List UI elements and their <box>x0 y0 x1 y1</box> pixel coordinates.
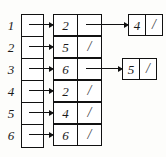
list-node-row1-second: 4 / <box>128 14 163 36</box>
list-node-row4-first: 2 / <box>53 80 102 102</box>
list-node-row5-first: 4 / <box>53 102 102 124</box>
array-slot-2 <box>22 37 43 59</box>
array-slot-3 <box>22 59 43 81</box>
node-value: 5 <box>54 37 78 57</box>
node-null-marker: / <box>78 103 101 123</box>
node-value: 6 <box>54 59 78 79</box>
node-value: 2 <box>54 81 78 101</box>
linked-list-diagram: 1 2 3 4 5 6 2 4 / 5 / 6 5 / <box>0 0 166 157</box>
node-null-marker: / <box>78 37 101 57</box>
next-arrow-row1 <box>86 24 128 25</box>
head-arrow-4 <box>29 90 53 91</box>
index-label-3: 3 <box>4 63 18 76</box>
node-null-marker: / <box>78 125 101 145</box>
head-arrow-6 <box>29 134 53 135</box>
list-node-row3-second: 5 / <box>122 58 157 80</box>
array-slot-6 <box>22 125 43 147</box>
array-slot-4 <box>22 81 43 103</box>
index-label-5: 5 <box>4 107 18 120</box>
node-value: 2 <box>54 15 78 35</box>
node-null-marker: / <box>140 59 156 79</box>
node-value: 4 <box>54 103 78 123</box>
list-node-row2-first: 5 / <box>53 36 102 58</box>
node-null-marker: / <box>146 15 162 35</box>
array-slot-1 <box>22 15 43 37</box>
index-label-1: 1 <box>4 19 18 32</box>
head-arrow-5 <box>29 112 53 113</box>
next-arrow-row3 <box>86 68 122 69</box>
index-label-4: 4 <box>4 85 18 98</box>
list-node-row6-first: 6 / <box>53 124 102 146</box>
index-label-6: 6 <box>4 129 18 142</box>
head-arrow-3 <box>29 68 53 69</box>
node-value: 4 <box>129 15 146 35</box>
head-arrow-1 <box>29 24 53 25</box>
index-label-2: 2 <box>4 41 18 54</box>
array-slot-5 <box>22 103 43 125</box>
node-null-marker: / <box>78 81 101 101</box>
node-value: 5 <box>123 59 140 79</box>
node-value: 6 <box>54 125 78 145</box>
array-column <box>21 14 44 148</box>
head-arrow-2 <box>29 46 53 47</box>
